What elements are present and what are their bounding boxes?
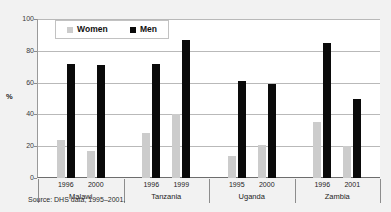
bar-women: [228, 156, 236, 178]
x-axis-year-label: 2000: [81, 181, 111, 189]
y-axis-tick-label: 80: [6, 47, 34, 54]
y-axis-tick-label: 60: [6, 79, 34, 86]
legend-label-women: Women: [77, 25, 108, 34]
bar-men: [323, 43, 331, 178]
source-note: Source: DHS data, 1995–2001.: [28, 196, 125, 204]
bar-men: [353, 99, 361, 179]
bar-women: [313, 122, 321, 178]
x-axis-year-label: 1999: [166, 181, 196, 189]
bar-women: [172, 114, 180, 178]
x-axis-year-label: 2000: [252, 181, 282, 189]
bar-men: [152, 64, 160, 178]
bar-men: [182, 40, 190, 178]
legend-swatch-women-icon: [67, 27, 73, 33]
y-axis-tick-label: 20: [6, 142, 34, 149]
bar-women: [57, 140, 65, 178]
legend-item-women: Women: [67, 25, 108, 34]
y-axis-tick-label: 0: [6, 174, 34, 181]
bar-men: [67, 64, 75, 178]
bar-women: [87, 151, 95, 178]
chart-legend: Women Men: [55, 20, 169, 39]
chart-figure: 020406080100 % Women Men 19962000Malawi1…: [0, 0, 391, 212]
x-axis-country-label: Tanzania: [124, 192, 210, 201]
legend-label-men: Men: [140, 25, 157, 34]
bar-women: [343, 146, 351, 178]
x-axis-year-label: 2001: [337, 181, 367, 189]
x-axis-year-label: 1995: [222, 181, 252, 189]
plot-area: [38, 19, 380, 178]
x-axis-group-separator: [209, 179, 210, 203]
x-axis-year-label: 1996: [307, 181, 337, 189]
y-axis-title: %: [6, 92, 13, 101]
bar-men: [268, 84, 276, 178]
legend-item-men: Men: [130, 25, 157, 34]
x-axis-group-separator: [295, 179, 296, 203]
x-axis-country-label: Uganda: [209, 192, 295, 201]
x-axis-group-separator: [380, 179, 381, 203]
legend-swatch-men-icon: [130, 27, 136, 33]
bar-women: [258, 145, 266, 178]
x-axis-year-label: 1996: [136, 181, 166, 189]
x-axis-country-label: Zambia: [295, 192, 381, 201]
y-axis-tick-label: 40: [6, 110, 34, 117]
bar-men: [97, 65, 105, 178]
y-axis-tick-label: 100: [6, 15, 34, 22]
x-axis-year-label: 1996: [51, 181, 81, 189]
x-axis: 19962000Malawi19961999Tanzania19952000Ug…: [38, 179, 381, 209]
bar-men: [238, 81, 246, 178]
y-axis-tick-mark: [34, 178, 37, 179]
bar-women: [142, 133, 150, 178]
